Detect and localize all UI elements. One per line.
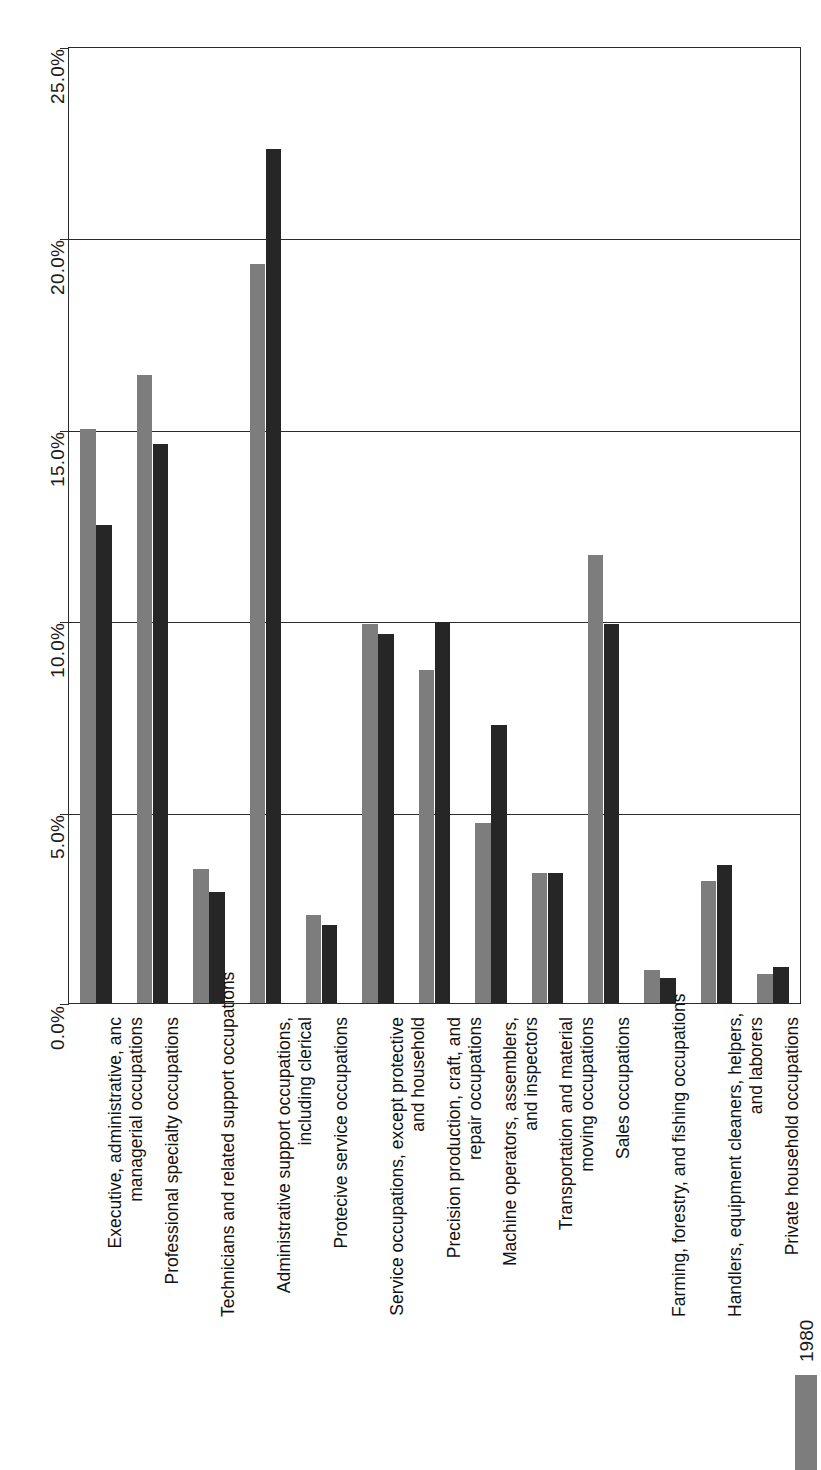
bar <box>532 873 548 1003</box>
bar <box>604 624 620 1003</box>
bar <box>378 634 394 1003</box>
category-label: Sales occupations <box>613 1017 634 1317</box>
bar <box>80 429 96 1003</box>
bar-group <box>633 48 689 1003</box>
bar <box>306 915 322 1003</box>
axis-tick-mark <box>60 431 69 432</box>
category-label: Executive, administrative, anc manageria… <box>105 1017 147 1317</box>
bar-group <box>125 48 181 1003</box>
bar <box>717 865 733 1003</box>
value-axis-tick-label: 10.0% <box>47 623 69 678</box>
bar <box>266 149 282 1003</box>
bar-group <box>576 48 632 1003</box>
category-label: Private household occupations <box>782 1017 803 1317</box>
axis-tick-mark <box>60 239 69 240</box>
bar <box>137 375 153 1003</box>
category-label: Machine operators, assemblers, and inspe… <box>500 1017 542 1317</box>
value-axis-tick-label: 20.0% <box>47 240 69 295</box>
bar-group <box>295 48 351 1003</box>
bar-group <box>238 48 294 1003</box>
value-axis-tick-label: 5.0% <box>47 815 69 859</box>
category-label: Transportation and material moving occup… <box>556 1017 598 1317</box>
bar-group <box>689 48 745 1003</box>
bar <box>701 881 717 1003</box>
bar <box>644 970 660 1003</box>
bar <box>773 967 789 1003</box>
bar-group <box>69 48 125 1003</box>
category-label: Technicians and related support occupati… <box>218 1017 239 1317</box>
bar <box>419 670 435 1003</box>
category-label: Service occupations, except protective a… <box>387 1017 429 1317</box>
bar-group <box>351 48 407 1003</box>
value-axis-tick-label: 25.0% <box>47 49 69 104</box>
bar <box>475 823 491 1003</box>
bar-group <box>520 48 576 1003</box>
bar <box>153 444 169 1003</box>
bar <box>193 869 209 1003</box>
bar <box>757 974 773 1003</box>
bar <box>362 624 378 1003</box>
category-label: Protecive service occupations <box>331 1017 352 1317</box>
category-label: Professional specialty occupations <box>162 1017 183 1317</box>
axis-tick-mark <box>60 48 69 49</box>
category-label: Farming, forestry, and fishing occupatio… <box>669 1017 690 1317</box>
bar-group <box>464 48 520 1003</box>
bar <box>588 555 604 1003</box>
legend-swatch-1980 <box>795 1375 817 1470</box>
bar <box>435 622 451 1003</box>
bar <box>96 525 112 1004</box>
category-label: Administrative support occupations, incl… <box>274 1017 316 1317</box>
axis-tick-mark <box>60 622 69 623</box>
category-axis-labels: Executive, administrative, anc manageria… <box>0 1005 821 1325</box>
bar-chart: 0.0%5.0%10.0%15.0%20.0%25.0% Executive, … <box>0 0 821 1470</box>
bar <box>548 873 564 1003</box>
bar <box>322 925 338 1003</box>
bar <box>250 264 266 1003</box>
bars-layer <box>69 48 800 1003</box>
legend-label-1980: 1980 <box>796 1320 818 1362</box>
bar <box>491 725 507 1003</box>
value-axis-tick-label: 15.0% <box>47 432 69 487</box>
category-label: Precision production, craft, and repair … <box>444 1017 486 1317</box>
plot-area <box>68 47 801 1004</box>
bar-group <box>182 48 238 1003</box>
category-label: Handlers, equipment cleaners, helpers, a… <box>725 1017 767 1317</box>
axis-tick-mark <box>60 814 69 815</box>
bar-group <box>746 48 802 1003</box>
bar-group <box>407 48 463 1003</box>
